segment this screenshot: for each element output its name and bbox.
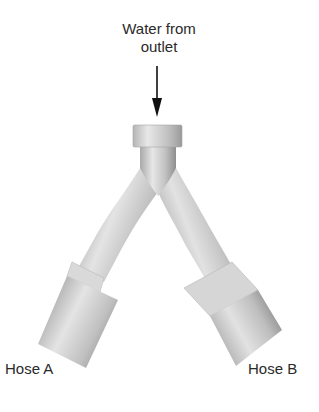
- inlet-label-line1: Water from: [104, 20, 214, 38]
- y-splitter-illustration: [0, 0, 319, 412]
- inlet-label-line2: outlet: [104, 38, 214, 56]
- hose-b-label: Hose B: [248, 360, 297, 378]
- hose-a-label: Hose A: [5, 360, 53, 378]
- inlet-label: Water from outlet: [104, 20, 214, 56]
- flow-arrow-icon: [152, 66, 162, 117]
- inlet-cap: [133, 125, 182, 147]
